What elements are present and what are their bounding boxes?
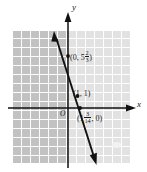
x-intercept-prefix: (1 bbox=[77, 114, 84, 123]
y-axis-label: y bbox=[72, 3, 76, 12]
x-axis bbox=[8, 105, 136, 112]
y-intercept-prefix: (0, 5 bbox=[70, 53, 85, 62]
axes-and-line bbox=[0, 0, 147, 172]
x-intercept-label: (1314, 0) bbox=[77, 111, 102, 125]
x-intercept-suffix: , 0) bbox=[91, 114, 102, 123]
point-1-1-label: (1, 1) bbox=[73, 90, 90, 98]
origin-label: O bbox=[60, 110, 65, 118]
y-intercept-label: (0, 523) bbox=[70, 50, 92, 64]
point-marker-x-intercept bbox=[78, 106, 82, 110]
y-intercept-suffix: ) bbox=[89, 53, 92, 62]
graph-figure: y x O (0, 523) (1, 1) (1314, 0) bbox=[0, 0, 147, 172]
y-axis bbox=[65, 12, 72, 168]
x-axis-label: x bbox=[137, 100, 141, 109]
